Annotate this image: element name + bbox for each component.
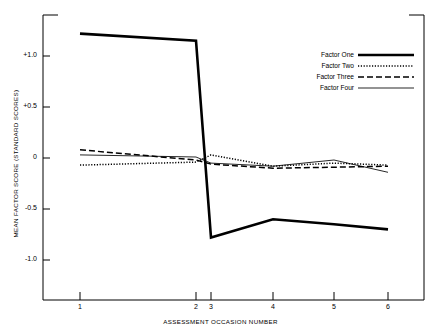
x-axis-title: ASSESSMENT OCCASION NUMBER [0, 318, 441, 325]
x-axis-ticks [80, 292, 388, 300]
chart-plot-area [0, 0, 441, 334]
y-axis-title: MEAN FACTOR SCORE (STANDARD SCORES) [12, 64, 19, 264]
y-tick-label-1: +0.5 [0, 102, 37, 109]
x-tick-label-2: 3 [201, 303, 221, 310]
series-line-factor-three [80, 150, 388, 168]
x-tick-label-3: 4 [263, 303, 283, 310]
chart-figure: +1.0 +0.5 0 -0.5 -1.0 1 2 3 4 5 6 MEAN F… [0, 0, 441, 334]
legend-label-factor-one: Factor One [284, 51, 354, 58]
legend-samples [358, 55, 414, 88]
legend-label-factor-three: Factor Three [284, 73, 354, 80]
legend-label-factor-two: Factor Two [284, 62, 354, 69]
legend-label-factor-four: Factor Four [284, 84, 354, 91]
x-tick-label-0: 1 [70, 303, 90, 310]
y-tick-label-4: -1.0 [0, 255, 37, 262]
y-tick-label-0: +1.0 [0, 51, 37, 58]
y-tick-label-2: 0 [0, 153, 37, 160]
y-tick-label-3: -0.5 [0, 204, 37, 211]
x-tick-label-5: 6 [378, 303, 398, 310]
series-line-factor-four [80, 155, 388, 172]
y-axis-ticks [43, 56, 50, 260]
axis-frame [43, 15, 424, 300]
x-tick-label-4: 5 [324, 303, 344, 310]
